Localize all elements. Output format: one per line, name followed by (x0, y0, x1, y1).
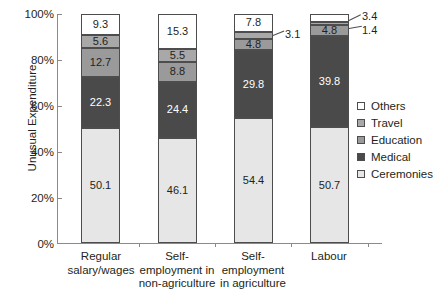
y-tick-0: 0% (14, 239, 54, 251)
bar-self-employment-agriculture: 7.8 4.8 29.8 54.4 (234, 14, 273, 243)
y-axis-tick-mark (57, 14, 62, 15)
segment-value-label: 15.3 (167, 26, 188, 37)
y-tick-80: 80% (14, 55, 54, 67)
segment-value-label: 22.3 (90, 97, 111, 108)
legend-swatch-medical-icon (357, 153, 365, 161)
segment-value-label: 8.8 (170, 66, 185, 77)
segment-value-label: 46.1 (167, 185, 188, 196)
x-category-line: employment (197, 264, 309, 278)
segment-value-label: 12.7 (90, 57, 111, 68)
legend-item-medical: Medical (357, 148, 433, 165)
callout-leader-line (349, 14, 361, 21)
y-axis-tick-mark (57, 106, 62, 107)
legend-label: Travel (371, 117, 403, 129)
segment-travel: 5.5 (158, 49, 197, 62)
segment-others: 9.3 (81, 14, 120, 35)
legend-label: Others (371, 100, 406, 112)
legend-label: Ceremonies (371, 168, 433, 180)
y-tick-60: 60% (14, 101, 54, 113)
legend-swatch-travel-icon (357, 119, 365, 127)
segment-medical: 22.3 (81, 77, 120, 128)
bar-self-employment-non-agriculture: 15.3 5.5 8.8 24.4 46.1 (158, 14, 197, 243)
x-axis-tick-mark (368, 243, 369, 247)
segment-others: 7.8 (234, 14, 273, 32)
y-axis-tick-mark (57, 152, 62, 153)
x-axis-tick-mark (215, 243, 216, 247)
segment-medical: 29.8 (234, 50, 273, 118)
x-axis-line (57, 243, 382, 244)
segment-value-label: 7.8 (246, 17, 261, 28)
segment-ceremonies: 54.4 (234, 118, 273, 243)
y-tick-20: 20% (14, 193, 54, 205)
x-category-label-labour: Labour (273, 250, 385, 264)
chart-legend: Others Travel Education Medical Ceremoni… (357, 97, 433, 182)
segment-value-label: 29.8 (243, 79, 264, 90)
segment-others: 15.3 (158, 14, 197, 49)
segment-value-label: 54.4 (243, 175, 264, 186)
segment-value-label: 24.4 (167, 104, 188, 115)
segment-education: 4.8 (234, 39, 273, 50)
y-axis-tick-mark (57, 198, 62, 199)
callout-value-3-1: 3.1 (285, 29, 300, 40)
x-category-line: in agriculture (197, 277, 309, 291)
segment-value-label: 39.8 (319, 76, 340, 87)
legend-swatch-others-icon (357, 102, 365, 110)
segment-ceremonies: 50.1 (81, 128, 120, 243)
callout-leader-line (273, 31, 285, 36)
legend-label: Medical (371, 151, 411, 163)
segment-travel: 5.6 (81, 35, 120, 48)
x-axis-tick-mark (139, 243, 140, 247)
segment-education: 12.7 (81, 48, 120, 77)
segment-value-label: 9.3 (93, 19, 108, 30)
bar-labour: 4.8 39.8 50.7 (310, 14, 349, 243)
segment-value-label: 4.8 (246, 39, 261, 50)
segment-medical: 39.8 (310, 36, 349, 127)
segment-value-label: 50.7 (319, 180, 340, 191)
callout-value-3-4: 3.4 (362, 11, 377, 22)
legend-item-education: Education (357, 131, 433, 148)
legend-item-ceremonies: Ceremonies (357, 165, 433, 182)
y-axis-line (57, 14, 58, 243)
segment-ceremonies: 50.7 (310, 127, 349, 243)
y-axis-tick-mark (57, 60, 62, 61)
x-category-line: Labour (273, 250, 385, 264)
legend-item-others: Others (357, 97, 433, 114)
segment-education: 8.8 (158, 62, 197, 82)
segment-medical: 24.4 (158, 82, 197, 138)
y-tick-40: 40% (14, 147, 54, 159)
segment-value-label: 5.6 (93, 36, 108, 47)
callout-value-1-4: 1.4 (362, 25, 377, 36)
segment-value-label: 50.1 (90, 180, 111, 191)
segment-value-label: 5.5 (170, 50, 185, 61)
callout-leader-line (349, 26, 362, 29)
legend-swatch-ceremonies-icon (357, 170, 365, 178)
segment-ceremonies: 46.1 (158, 138, 197, 243)
segment-value-label: 4.8 (322, 25, 337, 36)
y-tick-100: 100% (14, 9, 54, 21)
legend-item-travel: Travel (357, 114, 433, 131)
x-axis-tick-mark (291, 243, 292, 247)
legend-swatch-education-icon (357, 136, 365, 144)
segment-others (310, 14, 349, 22)
legend-label: Education (371, 134, 422, 146)
segment-education: 4.8 (310, 25, 349, 36)
y-axis-tick-mark (57, 243, 62, 244)
bar-regular-salary-wages: 9.3 5.6 12.7 22.3 50.1 (81, 14, 120, 243)
segment-travel (234, 32, 273, 39)
